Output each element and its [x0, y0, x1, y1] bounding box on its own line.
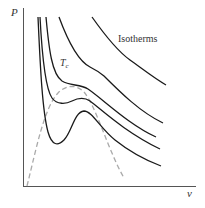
- y-axis-label: P: [10, 6, 18, 18]
- isotherms-label: Isotherms: [118, 33, 158, 44]
- x-axis-label: v: [187, 187, 192, 199]
- critical-temperature-subscript: c: [66, 62, 70, 70]
- critical-temperature-label: Tc: [60, 57, 70, 70]
- pv-diagram: P v Isotherms Tc: [0, 0, 205, 208]
- coexistence-dome: [27, 86, 124, 186]
